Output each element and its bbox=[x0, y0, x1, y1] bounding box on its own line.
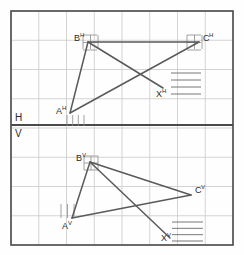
point-letter-A_H: A bbox=[56, 106, 62, 116]
point-superscript-B_V: V bbox=[82, 152, 86, 158]
segment-A_V-C_V bbox=[72, 195, 191, 218]
segment-A_H-C_H bbox=[70, 42, 199, 113]
ground-line-label-h: H bbox=[15, 112, 22, 123]
projection-drawing: HV AHBHCHXHAVBVCVXV bbox=[0, 0, 244, 255]
segment-B_V-C_V bbox=[90, 162, 191, 195]
point-superscript-C_H: H bbox=[209, 32, 213, 38]
grid-layer bbox=[11, 11, 233, 245]
point-labels-layer: AHBHCHXHAVBVCVXV bbox=[56, 32, 213, 243]
point-label-C_V: CV bbox=[195, 184, 205, 195]
point-letter-X_V: X bbox=[161, 233, 167, 243]
point-label-X_H: XH bbox=[156, 88, 166, 99]
point-letter-X_H: X bbox=[156, 89, 162, 99]
point-label-C_H: CH bbox=[203, 32, 213, 43]
segment-A_H-B_H bbox=[70, 42, 88, 113]
point-superscript-X_V: V bbox=[167, 232, 171, 238]
point-label-A_H: AH bbox=[56, 105, 66, 116]
point-label-X_V: XV bbox=[161, 232, 171, 243]
ground-line-label-v: V bbox=[15, 128, 22, 139]
projection-segments-layer bbox=[70, 42, 199, 238]
segment-B_V-X_V bbox=[90, 162, 170, 238]
point-superscript-B_H: H bbox=[80, 32, 84, 38]
point-label-A_V: AV bbox=[62, 220, 72, 231]
point-letter-B_H: B bbox=[74, 33, 80, 43]
point-label-B_V: BV bbox=[76, 152, 86, 163]
point-letter-B_V: B bbox=[76, 153, 82, 163]
point-superscript-A_H: H bbox=[62, 105, 66, 111]
point-superscript-C_V: V bbox=[201, 184, 205, 190]
point-letter-A_V: A bbox=[62, 221, 68, 231]
diagram-canvas: HV AHBHCHXHAVBVCVXV bbox=[0, 0, 244, 255]
point-superscript-X_H: H bbox=[162, 88, 166, 94]
segment-B_H-X_H bbox=[88, 42, 163, 88]
segment-A_V-B_V bbox=[72, 162, 90, 218]
point-superscript-A_V: V bbox=[68, 220, 72, 226]
